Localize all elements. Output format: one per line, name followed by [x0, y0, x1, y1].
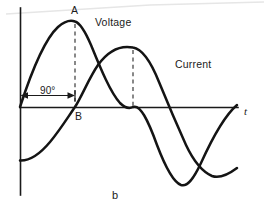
- waveform-plot: [0, 0, 264, 210]
- voltage-series-label: Voltage: [95, 17, 131, 28]
- scan-artifact-line: [6, 2, 264, 14]
- current-series-label: Current: [175, 59, 211, 70]
- voltage-waveform: [20, 21, 237, 186]
- point-b-label: B: [75, 111, 82, 122]
- figure-container: Voltage Current A B 90° t b: [0, 0, 264, 210]
- figure-caption: b: [112, 190, 118, 201]
- phase-arrow-head-right: [68, 92, 76, 98]
- x-axis-label: t: [244, 106, 247, 117]
- phase-angle-label: 90°: [40, 86, 55, 96]
- point-a-label: A: [71, 5, 78, 16]
